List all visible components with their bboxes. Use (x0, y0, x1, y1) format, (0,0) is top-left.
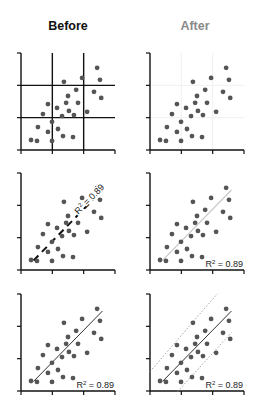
data-point (179, 139, 184, 144)
data-point (95, 306, 100, 311)
data-point (46, 343, 51, 348)
data-point (179, 360, 184, 365)
data-point (193, 341, 198, 346)
data-point (200, 376, 205, 381)
data-point (72, 113, 77, 118)
data-point (64, 341, 69, 346)
data-point (71, 376, 76, 381)
data-point (99, 96, 104, 101)
data-point (196, 108, 201, 113)
data-point (50, 119, 55, 124)
data-point (56, 247, 61, 252)
data-point (175, 370, 180, 375)
data-point (60, 355, 65, 360)
panel-before-fit: R2 = 0.89 (17, 173, 115, 274)
data-point (61, 134, 66, 139)
data-point (189, 114, 194, 119)
data-point (56, 368, 61, 373)
column-title-after: After (180, 19, 209, 33)
r2-value: = 0.89 (86, 380, 114, 390)
data-point (29, 258, 34, 263)
panels-group: R2 = 0.89R2 = 0.89R2 = 0.89R2 = 0.89 (17, 53, 244, 395)
panel-before-gridlines (17, 53, 115, 154)
data-point (209, 75, 214, 80)
data-point (41, 353, 46, 358)
data-point (201, 113, 206, 118)
data-point (158, 138, 163, 143)
data-point (203, 87, 208, 92)
data-point (76, 341, 81, 346)
data-point (191, 320, 196, 325)
data-point (193, 220, 198, 225)
data-point (64, 220, 69, 225)
r-squared-label: R2 = 0.89 (76, 380, 114, 391)
data-point (76, 100, 81, 105)
data-point (214, 350, 219, 355)
data-point (164, 139, 169, 144)
data-point (191, 79, 196, 84)
data-point (46, 129, 51, 134)
data-point (50, 259, 55, 264)
data-point (165, 125, 170, 130)
data-point (193, 100, 198, 105)
data-point (227, 77, 232, 82)
data-point (92, 330, 97, 335)
data-point (209, 195, 214, 200)
data-point (179, 380, 184, 385)
data-point (175, 343, 180, 348)
data-point (99, 216, 104, 221)
data-point (195, 335, 200, 340)
data-point (175, 222, 180, 227)
r2-value: = 0.89 (80, 182, 107, 209)
data-point (41, 112, 46, 117)
data-point (35, 259, 40, 264)
data-point (62, 199, 67, 204)
data-point (36, 125, 41, 130)
data-point (190, 375, 195, 380)
data-point (209, 316, 214, 321)
data-point (221, 209, 226, 214)
data-point (55, 226, 60, 231)
data-point (201, 354, 206, 359)
data-point (201, 233, 206, 238)
before-after-figure: Before After R2 = 0.89R2 = 0.89R2 = 0.89… (0, 0, 257, 417)
data-point (74, 328, 79, 333)
data-point (66, 214, 71, 219)
data-point (184, 106, 189, 111)
panel-after-gridlines (146, 53, 244, 154)
data-point (185, 368, 190, 373)
data-point (228, 337, 233, 342)
data-point (29, 138, 34, 143)
data-point (46, 102, 51, 107)
data-point (50, 360, 55, 365)
data-point (227, 318, 232, 323)
data-point (55, 106, 60, 111)
data-point (196, 228, 201, 233)
data-point (205, 220, 210, 225)
panel-after-fit: R2 = 0.89 (146, 173, 244, 274)
data-point (99, 337, 104, 342)
data-point (221, 330, 226, 335)
data-point (92, 209, 97, 214)
data-point (190, 254, 195, 259)
data-point (165, 366, 170, 371)
data-point (62, 320, 67, 325)
data-point (227, 197, 232, 202)
data-point (224, 65, 229, 70)
data-point (66, 94, 71, 99)
data-point (36, 245, 41, 250)
data-point (80, 75, 85, 80)
r2-value: = 0.89 (215, 380, 243, 390)
panel-after-band: R2 = 0.89 (146, 294, 244, 395)
data-point (74, 87, 79, 92)
data-point (72, 354, 77, 359)
data-point (29, 379, 34, 384)
data-point (66, 335, 71, 340)
data-point (195, 94, 200, 99)
data-point (189, 234, 194, 239)
data-point (190, 134, 195, 139)
data-point (71, 255, 76, 260)
data-point (64, 100, 69, 105)
r2-value: = 0.89 (215, 259, 243, 269)
data-point (164, 380, 169, 385)
